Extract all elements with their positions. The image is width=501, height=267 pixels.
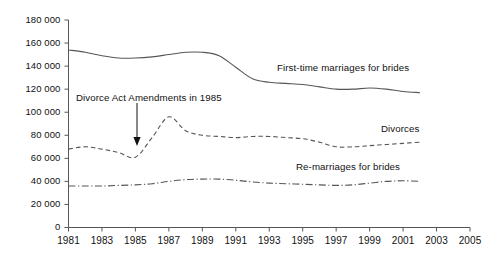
- series-line-divorces: [69, 117, 420, 158]
- y-axis-tick-label: 120 000: [0, 83, 61, 94]
- series-label-first-time-marriages-for-brides: First-time marriages for brides: [277, 62, 409, 73]
- y-axis-tick-label: 140 000: [0, 60, 61, 71]
- annotation-arrow: [133, 103, 140, 146]
- y-axis-tick-label: 60 000: [0, 152, 61, 163]
- series-line-re-marriages-for-brides: [69, 179, 420, 186]
- x-axis-ticks: [69, 228, 471, 232]
- series-label-divorces: Divorces: [381, 123, 419, 134]
- y-axis-tick-label: 180 000: [0, 14, 61, 25]
- y-axis-tick-label: 20 000: [0, 198, 61, 209]
- annotation-divorce-act-amendments: Divorce Act Amendments in 1985: [76, 92, 222, 103]
- y-axis-tick-label: 160 000: [0, 37, 61, 48]
- y-axis-tick-label: 80 000: [0, 129, 61, 140]
- y-axis-ticks: [65, 20, 69, 228]
- y-axis-tick-label: 40 000: [0, 175, 61, 186]
- series-label-re-marriages-for-brides: Re-marriages for brides: [296, 161, 400, 172]
- y-axis-tick-label: 0: [0, 221, 61, 232]
- line-chart: 020 00040 00060 00080 000100 000120 0001…: [0, 0, 501, 267]
- y-axis-tick-label: 100 000: [0, 106, 61, 117]
- chart-plot-area: [0, 0, 501, 267]
- x-axis-tick-label: 2005: [450, 235, 490, 246]
